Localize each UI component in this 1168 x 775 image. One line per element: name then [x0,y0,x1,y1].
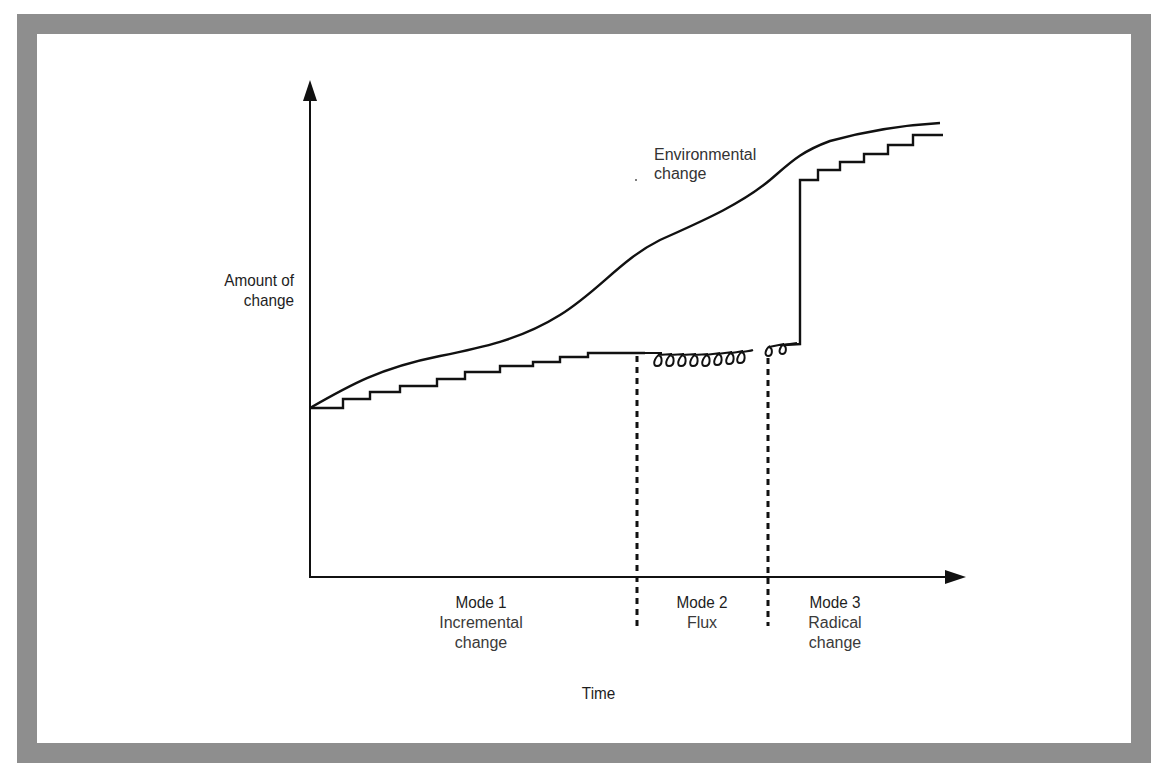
environmental-label-line1: Environmental [654,146,756,163]
mode-1-title: Mode 1 [414,592,549,613]
mode-1-label: Mode 1 Incremental change [406,592,556,653]
x-axis-label: Time [582,684,615,704]
environmental-label-line2: change [654,165,707,182]
mode-1-sub-line2: change [406,633,556,653]
mode-2-label: Mode 2 Flux [652,592,752,633]
mode-1-sub-line1: Incremental [406,613,556,633]
mode-3-label: Mode 3 Radical change [780,592,890,653]
flux-loops [645,343,797,366]
mode-2-sub-line1: Flux [652,613,752,633]
y-axis-label: Amount of change [208,271,294,312]
y-axis [303,80,317,578]
radical-change-steps [784,135,943,345]
x-axis-arrow-icon [945,570,966,584]
y-axis-arrow-icon [303,80,317,101]
mode-3-sub-line2: change [780,633,890,653]
y-axis-label-line1: Amount of [224,271,294,290]
mode-3-title: Mode 3 [786,592,885,613]
change-modes-diagram [0,0,1168,775]
environmental-change-label: Environmental change [654,145,756,183]
speck [635,179,637,181]
mode-2-title: Mode 2 [657,592,747,613]
mode-3-sub-line1: Radical [780,613,890,633]
y-axis-label-line2: change [244,291,294,310]
environmental-change-curve [310,123,940,408]
